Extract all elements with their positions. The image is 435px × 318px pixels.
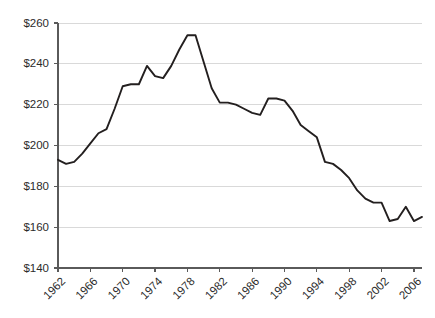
y-tick-label: $200 (23, 139, 49, 151)
y-tick-label: $180 (23, 180, 49, 192)
y-tick-label: $220 (23, 98, 49, 110)
y-tick-label: $240 (23, 57, 49, 69)
chart-background (0, 0, 435, 318)
y-tick-label: $160 (23, 221, 49, 233)
y-tick-label: $260 (23, 17, 49, 29)
line-chart: $260$240$220$200$180$160$140 19621966197… (0, 0, 435, 318)
y-tick-label: $140 (23, 262, 49, 274)
chart-container: $260$240$220$200$180$160$140 19621966197… (0, 0, 435, 318)
